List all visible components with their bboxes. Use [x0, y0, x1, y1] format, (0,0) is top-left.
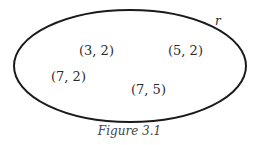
element-pair: (3, 2): [79, 44, 114, 57]
figure-caption: Figure 3.1: [0, 125, 259, 137]
element-pair: (5, 2): [168, 44, 203, 57]
element-pair: (7, 5): [131, 83, 166, 96]
element-pair: (7, 2): [51, 70, 86, 83]
relation-diagram: r (3, 2) (5, 2) (7, 2) (7, 5) Figure 3.1: [0, 0, 259, 145]
set-label-r: r: [215, 15, 221, 27]
